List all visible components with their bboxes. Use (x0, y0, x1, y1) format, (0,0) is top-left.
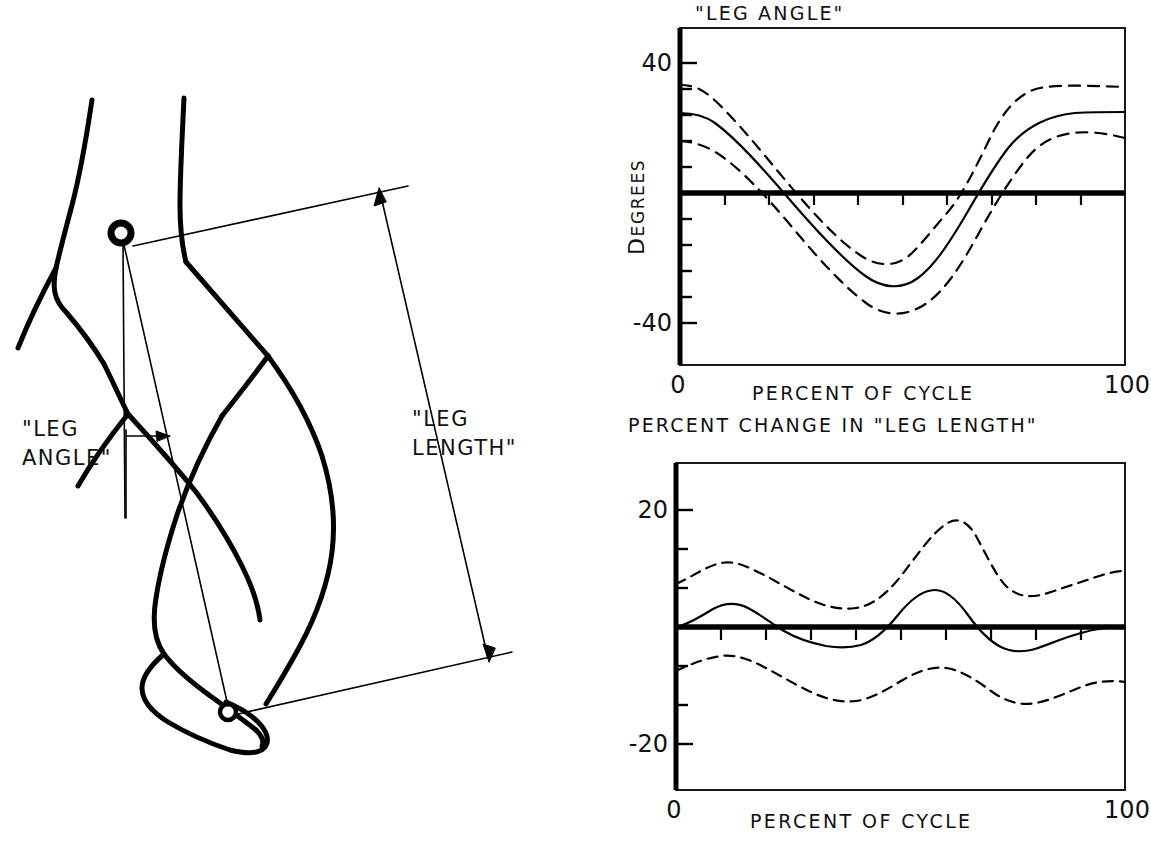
heel-toe-contour (142, 654, 267, 753)
leg-length-top-extension (133, 186, 408, 246)
figure-root: "LEG ANGLE" "LEG LENGTH" "LEG ANGLE" DEG… (0, 0, 1151, 845)
chart-leg-angle-xlabel: PERCENT OF CYCLE (752, 382, 975, 404)
chart-leg-angle: "LEG ANGLE" DEGREES (600, 0, 1151, 410)
calf-rear-contour (128, 414, 260, 620)
opposite-thigh-stub-upper (18, 268, 56, 348)
hip-marker-icon (111, 223, 131, 243)
leg-length-arrowhead-bottom-icon (483, 644, 495, 662)
x-tick-label-max: 100 (1104, 371, 1150, 399)
chart-leg-length-plot: 20 -20 0 100 (600, 410, 1151, 845)
series-upper-sd (676, 520, 1125, 608)
torso-front-contour (180, 98, 186, 262)
x-tick-label-max: 100 (1104, 796, 1150, 824)
toe-tip-contour (256, 730, 263, 746)
chart-leg-length-xlabel: PERCENT OF CYCLE (750, 810, 973, 832)
front-thigh-contour (186, 262, 268, 356)
x-tick-label-min: 0 (670, 371, 685, 399)
y-tick-label-bottom: -20 (629, 730, 668, 758)
shin-front-contour (222, 356, 268, 416)
series-mean (676, 590, 1125, 651)
y-tick-label-top: 40 (641, 49, 672, 77)
leg-length-diagram-label: "LEG LENGTH" (412, 405, 517, 463)
chart-leg-angle-plot: 40 -40 0 100 (600, 0, 1151, 410)
leg-angle-diagram-label: "LEG ANGLE" (22, 415, 112, 473)
torso-back-contour (54, 100, 104, 364)
series-lower-sd (676, 656, 1125, 704)
leg-length-top-leader (0, 0, 133, 246)
vertical-reference-line (123, 245, 125, 518)
y-tick-label-bottom: -40 (633, 309, 672, 337)
x-tick-label-min: 0 (666, 796, 681, 824)
series-upper-sd (680, 85, 1125, 264)
y-tick-label-top: 20 (637, 496, 668, 524)
leg-axis-line (124, 245, 228, 706)
chart-leg-length: PERCENT CHANGE IN "LEG LENGTH" (600, 410, 1151, 845)
leg-outer-contour (266, 356, 334, 704)
